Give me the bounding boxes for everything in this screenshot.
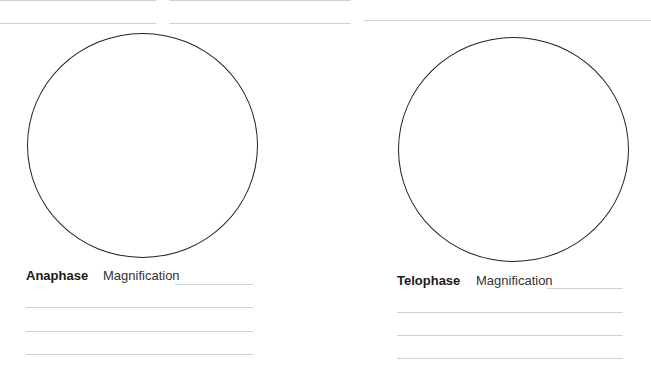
top-line bbox=[0, 23, 156, 24]
magnification-label: Magnification bbox=[103, 268, 180, 283]
notes-line[interactable] bbox=[397, 358, 623, 359]
magnification-input-line[interactable] bbox=[175, 284, 253, 285]
top-line bbox=[169, 23, 351, 24]
top-line bbox=[364, 20, 651, 21]
anaphase-label: Anaphase bbox=[26, 268, 88, 283]
notes-line[interactable] bbox=[26, 307, 253, 308]
telophase-label: Telophase bbox=[397, 273, 460, 288]
notes-line[interactable] bbox=[26, 331, 253, 332]
notes-line[interactable] bbox=[26, 354, 253, 355]
magnification-label: Magnification bbox=[476, 273, 553, 288]
notes-line[interactable] bbox=[397, 312, 623, 313]
top-line bbox=[0, 0, 156, 1]
anaphase-drawing-circle[interactable] bbox=[27, 33, 258, 258]
top-line bbox=[169, 0, 351, 1]
notes-line[interactable] bbox=[397, 335, 623, 336]
magnification-input-line[interactable] bbox=[547, 288, 623, 289]
telophase-drawing-circle[interactable] bbox=[398, 37, 629, 262]
